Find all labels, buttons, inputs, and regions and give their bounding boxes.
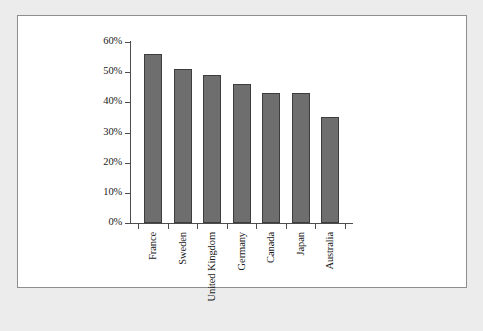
bar bbox=[203, 75, 221, 223]
x-tick-label-text: Australia bbox=[325, 232, 336, 270]
y-tick-mark bbox=[125, 72, 130, 73]
y-tick-mark bbox=[125, 163, 130, 164]
x-tick-label-text: Sweden bbox=[178, 232, 189, 265]
y-tick-label-text: 0% bbox=[84, 217, 122, 228]
y-tick-label-text: 60% bbox=[84, 36, 122, 47]
y-tick-label-text: 30% bbox=[84, 127, 122, 138]
y-tick-label-text: 20% bbox=[84, 157, 122, 168]
x-tick-label-text: Germany bbox=[237, 232, 248, 270]
y-tick-label: 50% bbox=[80, 66, 122, 78]
x-tick-mark bbox=[227, 224, 228, 229]
bar bbox=[233, 84, 251, 223]
figure-panel: 0%10%20%30%40%50%60% FranceSwedenUnited … bbox=[17, 15, 467, 288]
x-tick-mark bbox=[256, 224, 257, 229]
x-tick-label-text: Canada bbox=[266, 232, 277, 263]
bar bbox=[321, 117, 339, 223]
x-tick-mark bbox=[345, 224, 346, 229]
x-tick-mark bbox=[138, 224, 139, 229]
bar bbox=[174, 69, 192, 223]
y-tick-label-text: 10% bbox=[84, 187, 122, 198]
y-tick-mark bbox=[125, 223, 130, 224]
y-tick-label: 40% bbox=[80, 96, 122, 108]
y-tick-label: 30% bbox=[80, 127, 122, 139]
y-tick-label: 20% bbox=[80, 157, 122, 169]
bar bbox=[292, 93, 310, 223]
y-tick-label: 10% bbox=[80, 187, 122, 199]
bar-chart: 0%10%20%30%40%50%60% FranceSwedenUnited … bbox=[18, 16, 468, 289]
x-tick-label-text: United Kingdom bbox=[207, 232, 218, 301]
x-tick-mark bbox=[315, 224, 316, 229]
y-tick-label-text: 40% bbox=[84, 96, 122, 107]
y-tick-label: 0% bbox=[80, 217, 122, 229]
y-tick-mark bbox=[125, 193, 130, 194]
y-tick-mark bbox=[125, 42, 130, 43]
x-tick-label-text: Japan bbox=[296, 232, 307, 255]
bar bbox=[262, 93, 280, 223]
y-axis-line bbox=[130, 41, 131, 224]
y-tick-mark bbox=[125, 133, 130, 134]
x-tick-mark bbox=[168, 224, 169, 229]
x-tick-label-text: France bbox=[148, 232, 159, 260]
x-tick-mark bbox=[286, 224, 287, 229]
x-tick-mark bbox=[197, 224, 198, 229]
y-tick-mark bbox=[125, 102, 130, 103]
bar bbox=[144, 54, 162, 223]
y-tick-label: 60% bbox=[80, 36, 122, 48]
x-axis-line bbox=[130, 223, 353, 224]
y-tick-label-text: 50% bbox=[84, 66, 122, 77]
